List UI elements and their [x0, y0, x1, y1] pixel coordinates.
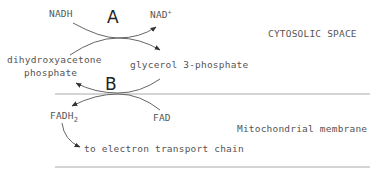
label-reaction-a: A: [107, 7, 119, 27]
label-dhap-line2: phosphate: [24, 67, 77, 78]
label-nad-plus: NAD+: [150, 8, 172, 20]
shuttle-diagram: NADH A NAD+ CYTOSOLIC SPACE dihydroxyace…: [0, 0, 378, 180]
label-g3p: glycerol 3-phosphate: [130, 59, 248, 70]
label-electron-transport-chain: to electron transport chain: [84, 143, 244, 154]
label-dhap-line1: dihydroxyacetone: [7, 54, 102, 65]
arrow-fad-to-fadh2: [72, 94, 160, 110]
arrow-dhap-to-g3p: [70, 38, 160, 55]
fadh-subscript: 2: [74, 116, 78, 124]
label-cytosolic-space: CYTOSOLIC SPACE: [268, 28, 357, 39]
arrow-fadh2-to-etc: [62, 123, 80, 147]
label-nadh: NADH: [49, 8, 73, 19]
nad-charge: +: [168, 8, 172, 15]
label-reaction-b: B: [105, 74, 117, 94]
label-fad: FAD: [153, 112, 171, 123]
nad-text: NAD: [150, 9, 168, 20]
label-mitochondrial-membrane: Mitochondrial membrane: [237, 123, 367, 134]
fadh-text: FADH: [50, 110, 74, 121]
arrow-g3p-to-dhap: [76, 79, 160, 93]
label-fadh2: FADH2: [50, 110, 78, 124]
